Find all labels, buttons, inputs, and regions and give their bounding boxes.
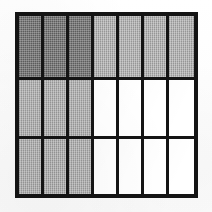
grid-figure — [15, 12, 198, 198]
grid-cell-r2c3 — [69, 80, 94, 140]
grid-cell-r3c1 — [19, 139, 44, 194]
grid-cell-r3c5 — [119, 139, 144, 194]
grid-cell-r1c4 — [94, 16, 119, 80]
grid-cell-r3c7 — [169, 139, 194, 194]
grid-cell-r3c6 — [144, 139, 169, 194]
grid-cell-r3c4 — [94, 139, 119, 194]
grid-cell-r1c2 — [44, 16, 69, 80]
grid-cell-r1c1 — [19, 16, 44, 80]
grid-cell-r1c6 — [144, 16, 169, 80]
grid-cell-r2c7 — [169, 80, 194, 140]
figure-canvas — [0, 0, 212, 212]
grid-cell-r3c2 — [44, 139, 69, 194]
grid-cell-r2c4 — [94, 80, 119, 140]
grid-cell-r2c2 — [44, 80, 69, 140]
grid-cell-r2c5 — [119, 80, 144, 140]
grid-cell-r3c3 — [69, 139, 94, 194]
grid-cell-r2c1 — [19, 80, 44, 140]
grid-cell-r1c5 — [119, 16, 144, 80]
grid-cell-r1c7 — [169, 16, 194, 80]
grid-cell-r2c6 — [144, 80, 169, 140]
grid-cell-r1c3 — [69, 16, 94, 80]
